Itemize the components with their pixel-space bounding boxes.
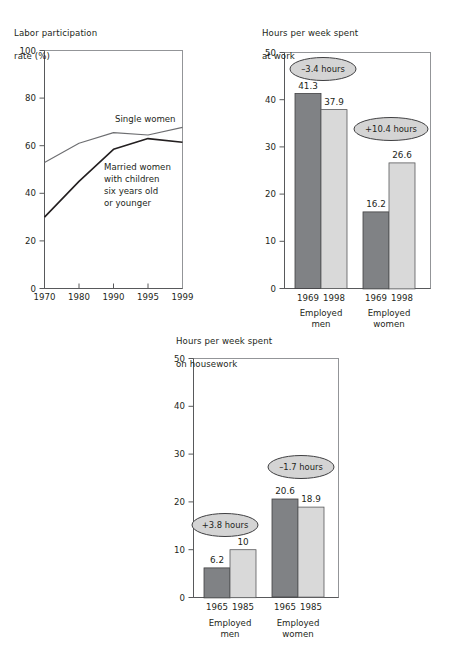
chart2-callout-women: +10.4 hours <box>354 118 428 141</box>
chart2-ytick-40: 40 <box>265 95 276 105</box>
chart3-ytick-10: 10 <box>174 545 185 555</box>
chart2-title-line1: Hours per week spent <box>262 28 358 40</box>
chart1-label-married-women-l4: or younger <box>104 198 152 208</box>
chart1-label-married-women-l3: six years old <box>104 186 158 196</box>
chart3-value-women-1985: 18.9 <box>301 494 321 504</box>
chart1-ytick-80: 80 <box>25 93 36 103</box>
chart3-xtick-women-1985: 1985 <box>300 602 322 612</box>
chart3-title-line2: on housework <box>176 359 272 371</box>
chart3-bar-men-1965 <box>204 568 230 598</box>
chart2-ytick-0: 0 <box>271 284 276 294</box>
chart3-xtick-men-1985: 1985 <box>232 602 254 612</box>
chart3-bar-women-1965 <box>272 499 298 597</box>
chart2-bar-men-1969 <box>295 94 321 289</box>
chart3-ytick-40: 40 <box>174 401 185 411</box>
chart1-title-line2: rate (%) <box>14 51 97 63</box>
chart3-y-ticklabels: 0 10 20 30 40 50 <box>174 354 185 603</box>
chart2-ytick-10: 10 <box>265 236 276 246</box>
chart2-title: Hours per week spent at work <box>262 16 358 74</box>
chart1-xtick-1980: 1980 <box>68 292 90 302</box>
chart3-callout-women-text: –1.7 hours <box>279 462 323 472</box>
chart1-label-married-women-l2: with children <box>104 174 159 184</box>
chart1-xtick-1999: 1999 <box>172 292 194 302</box>
chart2-y-ticklabels: 0 10 20 30 40 50 <box>265 48 276 294</box>
chart3-ytick-0: 0 <box>180 593 185 603</box>
chart3-y-ticks <box>189 359 194 598</box>
chart2-value-men-1969: 41.3 <box>298 81 318 91</box>
chart2-value-men-1998: 37.9 <box>324 97 344 107</box>
chart3-value-men-1985: 10 <box>237 537 249 547</box>
chart2-ytick-20: 20 <box>265 189 276 199</box>
chart1-y-ticklabels: 0 20 40 60 80 100 <box>20 46 36 294</box>
chart1-title-line1: Labor participation <box>14 28 97 40</box>
chart2-bar-men-1998 <box>321 110 347 289</box>
chart1-series-single-women-line <box>45 127 183 162</box>
chart2-xtick-men-1969: 1969 <box>297 293 319 303</box>
chart3-ytick-30: 30 <box>174 449 185 459</box>
chart3-value-women-1965: 20.6 <box>275 486 295 496</box>
chart3-xtick-women-1965: 1965 <box>274 602 296 612</box>
chart1-ytick-20: 20 <box>25 236 36 246</box>
chart3-ytick-20: 20 <box>174 497 185 507</box>
chart-hours-housework: Hours per week spent on housework 0 10 2… <box>120 312 380 658</box>
chart3-callout-men: +3.8 hours <box>192 514 258 537</box>
chart1-ytick-40: 40 <box>25 188 36 198</box>
chart2-xtick-men-1998: 1998 <box>323 293 345 303</box>
chart1-xtick-1970: 1970 <box>34 292 56 302</box>
chart2-value-women-1969: 16.2 <box>366 199 386 209</box>
chart2-title-line2: at work <box>262 51 358 63</box>
chart3-callout-women: –1.7 hours <box>268 456 334 479</box>
chart3-xtick-men-1965: 1965 <box>206 602 228 612</box>
chart2-ytick-30: 30 <box>265 142 276 152</box>
chart1-xtick-1990: 1990 <box>103 292 125 302</box>
chart1-title: Labor participation rate (%) <box>14 16 97 74</box>
chart2-xtick-women-1998: 1998 <box>391 293 413 303</box>
chart2-bar-women-1998 <box>389 163 415 289</box>
chart2-bar-women-1969 <box>363 212 389 289</box>
chart1-label-single-women: Single women <box>115 114 176 124</box>
chart3-group-men-l2: men <box>220 629 239 639</box>
chart3-bar-women-1985 <box>298 507 324 597</box>
chart3-group-women-l2: women <box>282 629 313 639</box>
chart1-xtick-1995: 1995 <box>137 292 159 302</box>
chart2-callout-women-text: +10.4 hours <box>365 124 417 134</box>
chart3-bar-men-1985 <box>230 550 256 598</box>
chart3-callout-men-text: +3.8 hours <box>202 520 249 530</box>
chart1-label-married-women: Married women with children six years ol… <box>104 162 171 208</box>
chart3-group-label-men: Employed men <box>209 618 252 639</box>
chart2-value-women-1998: 26.6 <box>392 150 412 160</box>
chart1-x-ticks <box>79 284 148 289</box>
chart3-group-label-women: Employed women <box>277 618 320 639</box>
chart1-label-married-women-l1: Married women <box>104 162 171 172</box>
chart3-group-women-l1: Employed <box>277 618 320 628</box>
chart3-group-men-l1: Employed <box>209 618 252 628</box>
chart-labor-participation: Labor participation rate (%) 0 20 40 60 … <box>0 0 230 310</box>
chart3-value-men-1965: 6.2 <box>210 555 224 565</box>
chart1-y-ticks <box>40 51 45 289</box>
chart1-x-ticklabels: 1970 1980 1990 1995 1999 <box>34 292 194 302</box>
chart2-y-ticks <box>280 53 285 289</box>
chart2-xtick-women-1969: 1969 <box>365 293 387 303</box>
chart1-ytick-60: 60 <box>25 141 36 151</box>
chart3-title-line1: Hours per week spent <box>176 336 272 348</box>
chart-hours-at-work: Hours per week spent at work 0 10 20 30 … <box>250 0 449 340</box>
chart3-title: Hours per week spent on housework <box>176 324 272 382</box>
